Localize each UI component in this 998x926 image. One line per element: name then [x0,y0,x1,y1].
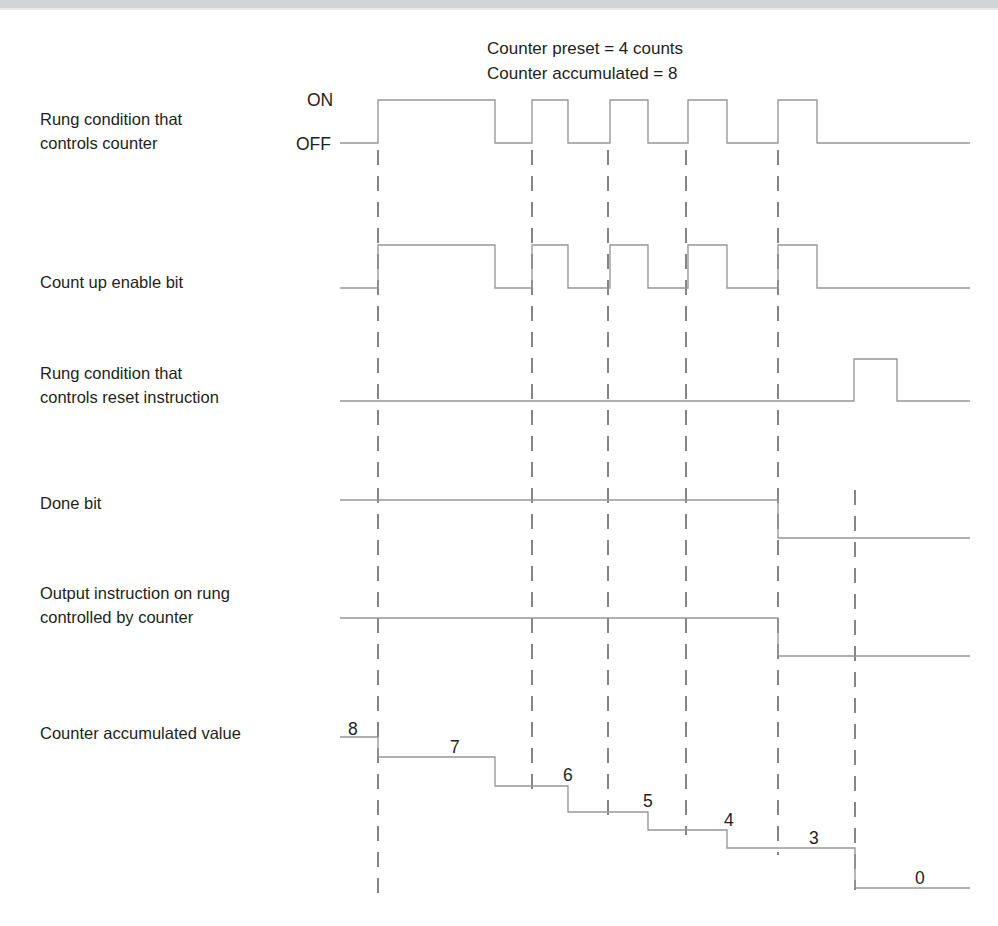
waveform-output-instruction [340,618,970,656]
dashed-marker-group [378,150,855,900]
figure-canvas: Counter preset = 4 counts Counter accumu… [0,0,998,926]
accumulated-step-value-3: 3 [809,828,819,848]
row-label-rung-reset-line1: Rung condition that [40,364,183,382]
note-counter-preset: Counter preset = 4 counts [487,39,683,58]
waveform-counter-accumulated-staircase [340,737,970,888]
row-label-done-bit: Done bit [40,494,102,512]
waveform-count-up-enable-bit [340,245,970,288]
accumulated-step-value-5: 5 [643,791,653,811]
axis-label-off: OFF [296,134,331,154]
row-label-output-instruction-line1: Output instruction on rung [40,584,230,602]
timing-diagram-svg: Counter preset = 4 counts Counter accumu… [0,0,998,926]
row-label-output-instruction-line2: controlled by counter [40,608,194,626]
waveform-rung-condition-counter [340,100,970,143]
accumulated-step-value-6: 6 [563,765,573,785]
row-label-count-up-enable: Count up enable bit [40,273,184,291]
row-label-accumulated-value: Counter accumulated value [40,724,241,742]
waveform-rung-condition-reset [340,359,970,401]
accumulated-step-value-0: 0 [915,868,925,888]
row-label-rung-counter-line1: Rung condition that [40,110,183,128]
accumulated-step-value-7: 7 [450,737,460,757]
row-label-rung-reset-line2: controls reset instruction [40,388,219,406]
accumulated-step-value-4: 4 [724,810,734,830]
row-label-rung-counter-line2: controls counter [40,134,158,152]
note-counter-accumulated: Counter accumulated = 8 [487,64,677,83]
waveform-done-bit [340,500,970,538]
accumulated-step-value-8: 8 [348,719,358,739]
axis-label-on: ON [307,90,333,110]
